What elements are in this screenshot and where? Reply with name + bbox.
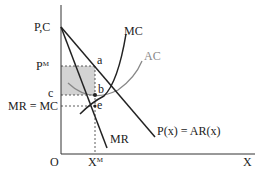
ac-curve-label: AC: [144, 49, 161, 63]
mr-curve-label: MR: [110, 132, 129, 146]
demand-curve-label: P(x) = AR(x): [157, 124, 220, 138]
pm-label: PM: [36, 59, 50, 73]
mc-curve-label: MC: [124, 24, 143, 38]
origin-label: O: [50, 155, 59, 169]
xm-label: XM: [88, 155, 104, 169]
mr-mc-label: MR = MC: [8, 99, 58, 113]
x-axis-label: X: [243, 155, 252, 169]
monopoly-diagram: P,C X O PM c MR = MC XM a b e MC AC MR P…: [0, 0, 260, 179]
point-b-label: b: [98, 82, 104, 96]
c-label: c: [48, 86, 53, 100]
y-axis-label: P,C: [34, 20, 50, 34]
point-b-dot: [93, 93, 97, 97]
point-a-label: a: [97, 53, 103, 67]
point-e-label: e: [97, 98, 102, 112]
